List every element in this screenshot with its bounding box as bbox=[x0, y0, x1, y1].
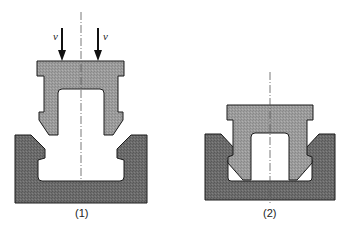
arrow-label-left: v bbox=[53, 30, 58, 42]
force-arrow-left bbox=[58, 28, 66, 61]
panel-2 bbox=[205, 72, 335, 203]
arrow-label-right: v bbox=[103, 30, 108, 42]
force-arrow-right bbox=[94, 28, 102, 61]
punch-part-1 bbox=[37, 61, 124, 135]
panel-1 bbox=[15, 12, 147, 203]
caption-panel-1: (1) bbox=[75, 207, 88, 219]
caption-panel-2: (2) bbox=[263, 207, 276, 219]
